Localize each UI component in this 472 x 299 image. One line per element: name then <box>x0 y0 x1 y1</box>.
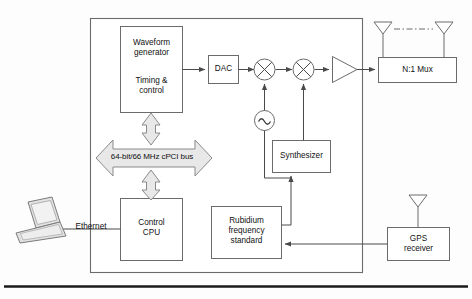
mixer-icon-2 <box>293 59 314 80</box>
diagram-canvas: Waveform generator Timing & control DAC … <box>0 0 472 299</box>
synthesizer-box[interactable] <box>273 141 331 173</box>
mux-box[interactable] <box>379 58 457 83</box>
oscillator-icon <box>255 111 275 131</box>
antenna-icon-gps <box>409 195 427 228</box>
rubidium-standard-box[interactable] <box>212 207 282 259</box>
waveform-generator-box[interactable] <box>121 27 183 113</box>
antenna-icon-right <box>435 22 453 58</box>
gps-receiver-box[interactable] <box>388 228 450 261</box>
control-cpu-box[interactable] <box>121 199 183 261</box>
mixer-icon-1 <box>254 59 275 80</box>
diagram-svg <box>0 0 472 299</box>
laptop-icon <box>16 197 66 243</box>
dac-box[interactable] <box>209 56 239 84</box>
antenna-icon-left <box>374 22 392 58</box>
